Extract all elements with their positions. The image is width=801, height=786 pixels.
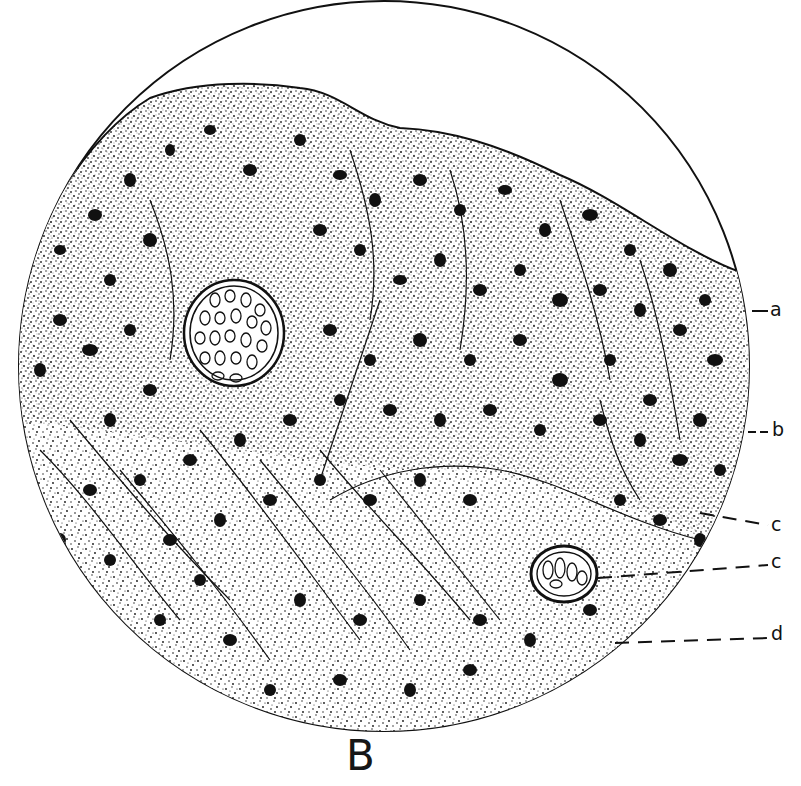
label-a: a: [770, 300, 782, 319]
label-c-upper: c: [771, 515, 781, 534]
label-b: b: [772, 420, 784, 439]
large-bundle: [184, 280, 284, 386]
figure-caption: B: [346, 735, 375, 777]
histology-figure: [0, 0, 801, 786]
small-bundle: [531, 546, 597, 602]
label-d: d: [771, 624, 783, 643]
leader-d: [615, 638, 768, 643]
label-c-lower: c: [771, 552, 781, 571]
